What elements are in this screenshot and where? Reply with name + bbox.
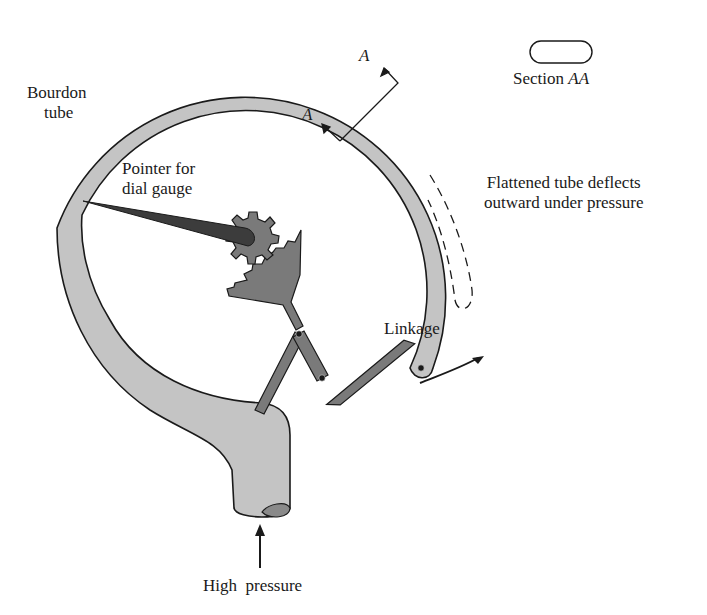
deflection-label-line1: Flattened tube deflects (484, 173, 644, 193)
section-aa-label: Section AA (513, 69, 589, 89)
pointer-label-line2: dial gauge (122, 179, 195, 199)
deflection-label: Flattened tube deflects outward under pr… (484, 173, 644, 213)
section-aa-shape (530, 41, 592, 63)
bourdon-tube (57, 97, 446, 517)
bourdon-tube-label: Bourdon tube (27, 83, 87, 123)
section-label-italic: AA (568, 69, 589, 88)
section-marker-a-bottom: A (302, 105, 312, 125)
pressure-arrowhead (255, 524, 265, 536)
deflection-label-line2: outward under pressure (484, 193, 644, 213)
bourdon-gauge-diagram (0, 0, 707, 615)
section-label-prefix: Section (513, 69, 568, 88)
linkage-bar-2 (321, 336, 420, 411)
high-pressure-label: High pressure (203, 576, 302, 596)
section-marker-a-top: A (359, 46, 369, 66)
pivot-pin-elbow (319, 375, 325, 381)
pointer (83, 201, 254, 246)
bourdon-label-line1: Bourdon (27, 83, 87, 103)
pointer-label-line1: Pointer for (122, 159, 195, 179)
pivot-pin-sector (296, 331, 302, 337)
pivot-pin-tube-end (418, 365, 424, 371)
linkage-label: Linkage (384, 319, 440, 339)
bourdon-label-line2: tube (27, 103, 87, 123)
linkage-bar-1 (293, 331, 328, 381)
pointer-label: Pointer for dial gauge (122, 159, 195, 199)
